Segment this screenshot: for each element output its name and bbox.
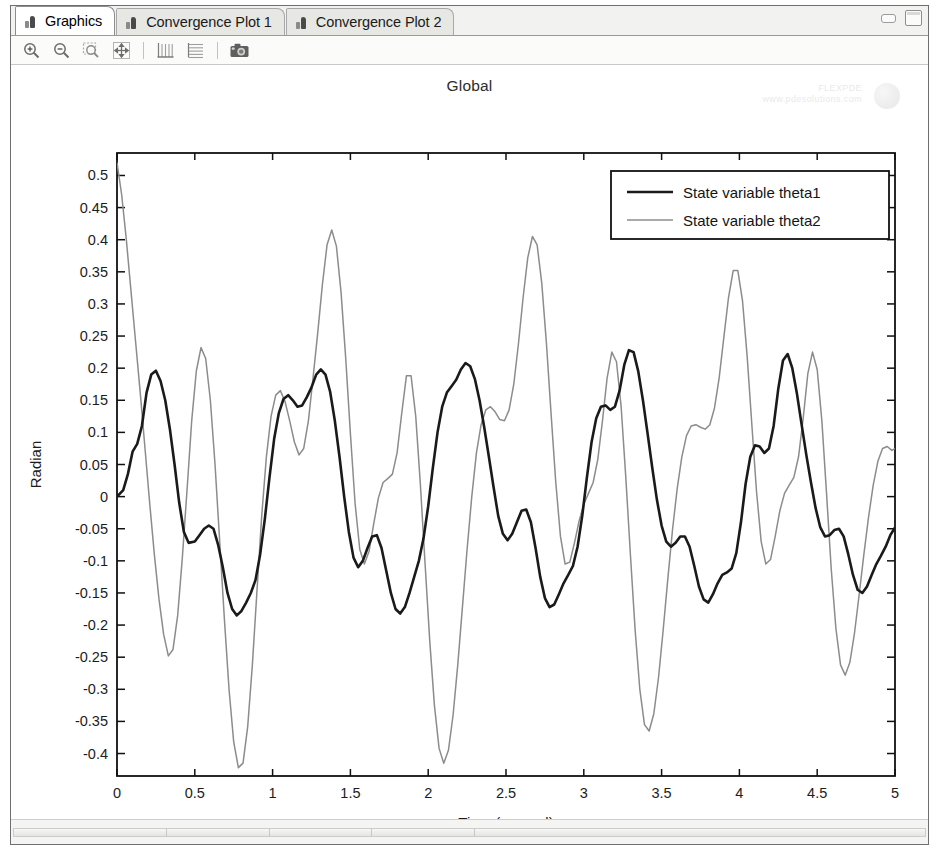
maximize-button[interactable] [905, 10, 922, 26]
legend-label-1: State variable theta1 [683, 184, 821, 201]
x-tick-label: 4.5 [807, 785, 827, 801]
horizontal-grid-button[interactable] [182, 38, 209, 63]
y-tick-label: 0.5 [88, 167, 108, 183]
vertical-grid-icon [156, 41, 175, 60]
x-tick-label: 4 [735, 785, 743, 801]
x-tick-label: 5 [891, 785, 899, 801]
zoom-out-button[interactable] [48, 38, 75, 63]
zoom-out-icon [52, 41, 71, 60]
x-tick-label: 3 [580, 785, 588, 801]
status-notch [269, 828, 270, 837]
zoom-region-icon [82, 41, 101, 60]
y-tick-label: 0.1 [88, 424, 108, 440]
y-tick-label: -0.3 [83, 681, 108, 697]
y-tick-label: 0.2 [88, 360, 108, 376]
y-tick-label: -0.1 [83, 553, 108, 569]
tab-strip: Graphics Convergence Plot 1 Convergence … [11, 6, 928, 36]
y-tick-label: -0.05 [75, 521, 108, 537]
status-progress-track [13, 828, 926, 837]
camera-snapshot-icon [229, 41, 250, 60]
legend: State variable theta1State variable thet… [611, 171, 889, 239]
chart-toolbar [11, 36, 928, 65]
plot-canvas[interactable]: 00.511.522.533.544.550.50.450.40.350.30.… [11, 65, 928, 819]
x-tick-label: 0 [113, 785, 121, 801]
status-notch [166, 828, 167, 837]
y-tick-label: 0.15 [80, 392, 108, 408]
y-tick-label: 0.25 [80, 328, 108, 344]
chart-panel: Global FLEXPDE www.pdesolutions.com 00.5… [11, 65, 928, 819]
status-bar [11, 819, 928, 844]
toolbar-separator-2 [217, 42, 218, 59]
y-tick-label: 0.45 [80, 200, 108, 216]
series-line-2 [117, 163, 895, 768]
pan-move-icon [112, 41, 131, 60]
y-tick-label: -0.35 [75, 713, 108, 729]
tab-convergence-plot-2-label: Convergence Plot 2 [316, 15, 442, 30]
y-axis-label: Radian [27, 441, 44, 489]
y-tick-label: -0.4 [83, 746, 108, 762]
plot-frame [117, 153, 895, 776]
zoom-in-button[interactable] [18, 38, 45, 63]
zoom-region-button[interactable] [78, 38, 105, 63]
x-tick-label: 2.5 [496, 785, 516, 801]
graphics-icon [24, 14, 39, 29]
toolbar-separator-1 [143, 42, 144, 59]
y-tick-label: 0.3 [88, 296, 108, 312]
tab-graphics[interactable]: Graphics [15, 6, 115, 35]
graphics-icon [295, 15, 310, 30]
camera-snapshot-button[interactable] [226, 38, 253, 63]
graphics-window: Graphics Convergence Plot 1 Convergence … [10, 5, 929, 845]
tab-convergence-plot-1-label: Convergence Plot 1 [146, 15, 272, 30]
y-tick-label: -0.25 [75, 649, 108, 665]
y-tick-label: -0.15 [75, 585, 108, 601]
tab-convergence-plot-2[interactable]: Convergence Plot 2 [286, 8, 455, 35]
y-tick-label: 0.35 [80, 264, 108, 280]
status-notch [474, 828, 475, 837]
y-tick-label: 0 [100, 489, 108, 505]
window-controls [881, 10, 922, 26]
status-notch [371, 828, 372, 837]
app-root: Graphics Convergence Plot 1 Convergence … [0, 0, 939, 861]
x-tick-label: 1 [269, 785, 277, 801]
x-tick-label: 2 [424, 785, 432, 801]
y-tick-label: 0.05 [80, 457, 108, 473]
minimize-button[interactable] [881, 14, 896, 23]
y-tick-label: -0.2 [83, 617, 108, 633]
x-tick-label: 1.5 [340, 785, 360, 801]
x-tick-label: 3.5 [652, 785, 672, 801]
vertical-grid-button[interactable] [152, 38, 179, 63]
legend-label-2: State variable theta2 [683, 212, 821, 229]
pan-move-button[interactable] [108, 38, 135, 63]
series-line-1 [117, 350, 895, 615]
tab-graphics-label: Graphics [45, 14, 102, 29]
tab-convergence-plot-1[interactable]: Convergence Plot 1 [116, 8, 285, 35]
x-tick-label: 0.5 [185, 785, 205, 801]
y-tick-label: 0.4 [88, 232, 108, 248]
horizontal-grid-icon [186, 41, 205, 60]
graphics-icon [125, 15, 140, 30]
zoom-in-icon [22, 41, 41, 60]
